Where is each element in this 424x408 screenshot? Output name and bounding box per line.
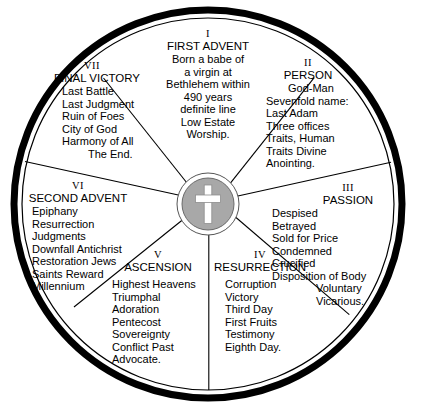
sector-title: PASSION <box>272 194 396 207</box>
sector-title: SECOND ADVENT <box>17 192 139 205</box>
sector-title: FINAL VICTORY <box>38 72 156 85</box>
sector-item: Three offices <box>266 120 406 133</box>
sector-item: Restoration Jews <box>17 255 163 268</box>
sector-item: Last Battle <box>38 85 168 98</box>
sector-item: Sold for Price <box>272 232 420 245</box>
sector-numeral: I <box>134 28 282 40</box>
sector-item: Advocate. <box>112 353 216 366</box>
sector-item: Anointing. <box>266 157 406 170</box>
sector-item: God-Man <box>266 82 406 95</box>
sector-item: Eighth Day. <box>213 341 333 354</box>
sector-item: Conflict Past <box>112 341 216 354</box>
sector-item: Testimony <box>213 328 333 341</box>
sector-item: Corruption <box>213 278 333 291</box>
sector-item: Victory <box>213 291 333 304</box>
sector-numeral: II <box>266 57 350 69</box>
sector-title: RESURRECTION <box>213 261 307 274</box>
sector-person: II PERSON God-Man Sevenfold name: Last A… <box>266 57 406 170</box>
sector-title: FIRST ADVENT <box>134 40 282 53</box>
sector-final-victory: VII FINAL VICTORY Last Battle Last Judgm… <box>38 60 168 160</box>
sector-numeral: VII <box>38 60 146 72</box>
sector-item: Millennium <box>17 280 163 293</box>
sector-item: Ruin of Foes <box>38 110 168 123</box>
sector-item: Traits Divine <box>266 145 406 158</box>
sector-item: Betrayed <box>272 220 420 233</box>
sector-title: PERSON <box>266 69 350 82</box>
sector-resurrection: IV RESURRECTION Corruption Victory Third… <box>213 249 333 353</box>
sector-item: Despised <box>272 207 420 220</box>
sector-item: City of God <box>38 123 168 136</box>
sector-numeral: VI <box>17 180 139 192</box>
sector-item: Third Day <box>213 303 333 316</box>
sector-numeral: IV <box>213 249 307 261</box>
sector-item: Saints Reward <box>17 268 163 281</box>
sector-item: Sevenfold name: <box>266 95 406 108</box>
sector-numeral: III <box>272 182 396 194</box>
sector-second-advent: VI SECOND ADVENT Epiphany Resurrection J… <box>17 180 163 293</box>
sector-item: Sovereignty <box>112 328 216 341</box>
sector-item: Adoration <box>112 303 216 316</box>
sector-item: Resurrection <box>17 218 163 231</box>
sector-item: Downfall Antichrist <box>17 243 163 256</box>
sector-item: Judgments <box>17 230 163 243</box>
sector-item: Last Adam <box>266 107 406 120</box>
sector-item: The End. <box>38 148 168 161</box>
sector-item: Epiphany <box>17 205 163 218</box>
sector-item: Traits, Human <box>266 132 406 145</box>
prophetic-wheel-diagram: I FIRST ADVENT Born a babe of a virgin a… <box>0 0 424 408</box>
sector-item: Harmony of All <box>38 135 168 148</box>
sector-item: First Fruits <box>213 316 333 329</box>
sector-item: Pentecost <box>112 316 216 329</box>
sector-item: Last Judgment <box>38 98 168 111</box>
